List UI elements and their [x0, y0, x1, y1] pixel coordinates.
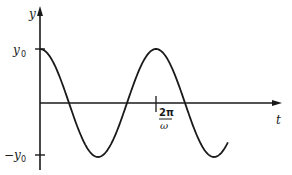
y-axis-arrow-icon [37, 6, 43, 16]
y0-label: y 0 [12, 43, 26, 59]
svg-text:−y: −y [4, 148, 21, 162]
svg-text:ω: ω [160, 120, 168, 131]
svg-text:y: y [12, 43, 20, 57]
period-label: 2π ω [159, 107, 174, 131]
t-axis-arrow-icon [272, 100, 282, 106]
svg-text:0: 0 [21, 50, 26, 59]
y-axis-label: y [28, 7, 36, 21]
neg-y0-label: −y 0 [4, 148, 26, 164]
svg-text:2π: 2π [159, 107, 174, 118]
cosine-graph: y t y 0 −y 0 2π ω [0, 0, 292, 175]
svg-text:0: 0 [21, 155, 26, 164]
t-axis-label: t [276, 113, 281, 127]
